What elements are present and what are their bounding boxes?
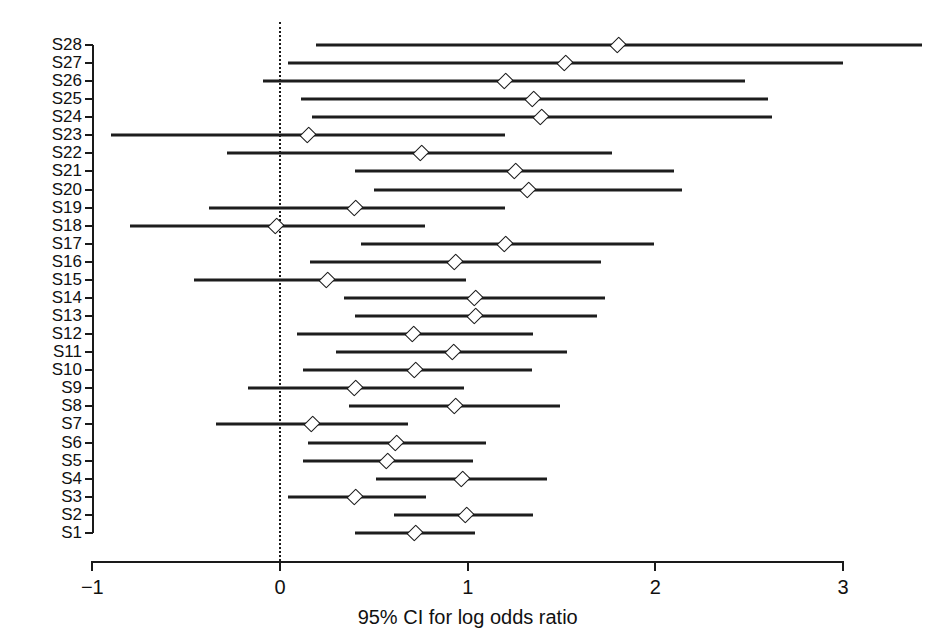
estimate-marker <box>407 362 424 379</box>
y-axis-tick <box>85 351 93 353</box>
y-axis-tick <box>85 98 93 100</box>
y-axis-tick-label-s8: S8 <box>0 396 82 416</box>
y-axis-tick-label-s1: S1 <box>0 523 82 543</box>
forest-plot-figure: S28S27S26S25S24S23S22S21S20S19S18S17S16S… <box>0 0 942 640</box>
estimate-marker <box>300 127 317 144</box>
y-axis-tick-label-s24: S24 <box>0 107 82 127</box>
y-axis-tick <box>85 532 93 534</box>
estimate-marker <box>519 181 536 198</box>
y-axis-tick <box>85 514 93 516</box>
estimate-marker <box>347 380 364 397</box>
y-axis-tick <box>85 44 93 46</box>
y-axis-tick-label-s16: S16 <box>0 252 82 272</box>
estimate-marker <box>388 434 405 451</box>
y-axis-tick-label-s6: S6 <box>0 433 82 453</box>
y-axis-tick <box>85 423 93 425</box>
y-axis-tick <box>85 315 93 317</box>
y-axis-tick <box>85 387 93 389</box>
estimate-marker <box>454 470 471 487</box>
reference-line-zero <box>279 22 281 561</box>
estimate-marker <box>506 163 523 180</box>
y-axis-tick-label-s21: S21 <box>0 161 82 181</box>
estimate-marker <box>268 217 285 234</box>
y-axis-tick <box>85 207 93 209</box>
y-axis-tick-label-s19: S19 <box>0 198 82 218</box>
y-axis-tick-label-s20: S20 <box>0 180 82 200</box>
y-axis-tick <box>85 116 93 118</box>
y-axis-tick-label-s28: S28 <box>0 35 82 55</box>
estimate-marker <box>446 398 463 415</box>
estimate-marker <box>412 145 429 162</box>
estimate-marker <box>407 524 424 541</box>
y-axis-tick-label-s7: S7 <box>0 414 82 434</box>
x-axis-tick <box>279 561 281 571</box>
y-axis-tick-label-s25: S25 <box>0 89 82 109</box>
estimate-marker <box>303 416 320 433</box>
y-axis-tick-label-s18: S18 <box>0 216 82 236</box>
x-axis-title: 95% CI for log odds ratio <box>358 606 578 629</box>
y-axis-tick <box>85 279 93 281</box>
y-axis-tick <box>85 460 93 462</box>
y-axis-tick-label-s13: S13 <box>0 306 82 326</box>
y-axis-tick-label-s10: S10 <box>0 360 82 380</box>
x-axis-tick <box>842 561 844 571</box>
y-axis-tick <box>85 243 93 245</box>
estimate-marker <box>609 37 626 54</box>
y-axis-tick <box>85 80 93 82</box>
estimate-marker <box>497 73 514 90</box>
estimate-marker <box>347 488 364 505</box>
estimate-marker <box>525 91 542 108</box>
y-axis-tick-label-s2: S2 <box>0 505 82 525</box>
y-axis-tick <box>85 62 93 64</box>
y-axis-tick-label-s3: S3 <box>0 487 82 507</box>
y-axis-tick <box>85 369 93 371</box>
y-axis-tick <box>85 496 93 498</box>
y-axis-tick <box>85 170 93 172</box>
x-axis-tick <box>467 561 469 571</box>
y-axis-tick-label-s17: S17 <box>0 234 82 254</box>
y-axis-tick <box>85 134 93 136</box>
y-axis-tick <box>85 297 93 299</box>
y-axis-tick <box>85 405 93 407</box>
y-axis-tick-label-s11: S11 <box>0 342 82 362</box>
x-axis-tick <box>654 561 656 571</box>
y-axis-tick-label-s27: S27 <box>0 53 82 73</box>
x-axis-tick-label: −1 <box>81 576 104 599</box>
x-axis-tick-label: 1 <box>462 576 473 599</box>
y-axis-tick <box>85 152 93 154</box>
y-axis-tick <box>85 478 93 480</box>
y-axis-tick-label-s22: S22 <box>0 143 82 163</box>
x-axis-tick <box>91 561 93 571</box>
y-axis-tick-label-s26: S26 <box>0 71 82 91</box>
y-axis-tick-label-s5: S5 <box>0 451 82 471</box>
y-axis-tick <box>85 261 93 263</box>
y-axis-tick-label-s14: S14 <box>0 288 82 308</box>
x-axis-tick-label: 3 <box>838 576 849 599</box>
y-axis-tick <box>85 333 93 335</box>
estimate-marker <box>467 289 484 306</box>
estimate-marker <box>405 326 422 343</box>
estimate-marker <box>467 308 484 325</box>
estimate-marker <box>318 271 335 288</box>
y-axis-tick <box>85 189 93 191</box>
estimate-marker <box>457 506 474 523</box>
plot-area: S28S27S26S25S24S23S22S21S20S19S18S17S16S… <box>0 0 942 640</box>
y-axis-tick <box>85 442 93 444</box>
estimate-marker <box>378 452 395 469</box>
y-axis-tick <box>85 225 93 227</box>
estimate-marker <box>557 55 574 72</box>
estimate-marker <box>347 199 364 216</box>
y-axis-tick-label-s15: S15 <box>0 270 82 290</box>
y-axis-tick-label-s23: S23 <box>0 125 82 145</box>
x-axis-tick-label: 0 <box>274 576 285 599</box>
estimate-marker <box>497 235 514 252</box>
y-axis-tick-label-s9: S9 <box>0 378 82 398</box>
estimate-marker <box>444 344 461 361</box>
estimate-marker <box>446 253 463 270</box>
y-axis-tick-label-s4: S4 <box>0 469 82 489</box>
estimate-marker <box>532 109 549 126</box>
y-axis-tick-label-s12: S12 <box>0 324 82 344</box>
x-axis-tick-label: 2 <box>650 576 661 599</box>
